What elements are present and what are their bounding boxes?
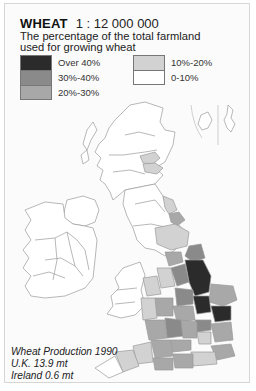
map-subtitle: The percentage of the total farmland use… [20, 31, 220, 53]
legend-swatch [20, 85, 52, 100]
buckinghamshire [181, 320, 197, 338]
legend-swatch [133, 70, 165, 85]
bedfordshire [195, 320, 211, 332]
legend-label: Over 40% [58, 57, 100, 68]
surrey-sussex [191, 352, 217, 366]
title-text: WHEAT [20, 16, 68, 31]
south-yorkshire [165, 252, 183, 266]
legend-swatch [20, 70, 52, 85]
caption-title: Wheat Production 1990 [11, 346, 117, 358]
essex [211, 322, 233, 342]
warwickshire [155, 298, 173, 316]
cambridgeshire [193, 296, 211, 314]
scotland [95, 102, 175, 200]
production-caption: Wheat Production 1990 U.K. 13.9 mt Irela… [11, 346, 117, 382]
legend-label: 30%-40% [58, 72, 99, 83]
humberside [185, 244, 205, 262]
legend-swatch [20, 55, 52, 70]
legend-label: 20%-30% [58, 87, 99, 98]
staffordshire [143, 276, 161, 296]
legend-item-30-40: 30%-40% [20, 70, 99, 85]
legend-swatch [133, 55, 165, 70]
wales [107, 262, 145, 318]
hampshire [173, 354, 193, 368]
suffolk [211, 306, 231, 322]
orkney-islands [198, 112, 212, 130]
hertfordshire [197, 332, 211, 344]
choropleth-map [5, 100, 251, 380]
legend-item-0-10: 0-10% [133, 70, 198, 85]
legend-item-over-40: Over 40% [20, 55, 100, 70]
map-scale: 1 : 12 000 000 [76, 16, 159, 31]
oxfordshire [165, 318, 183, 338]
berkshire [171, 340, 191, 352]
legend-item-20-30: 20%-30% [20, 85, 99, 100]
hereford-worcester [141, 298, 157, 320]
legend-label: 0-10% [171, 72, 198, 83]
leicestershire [175, 288, 193, 306]
shetland-islands [224, 105, 235, 132]
caption-ireland: Ireland 0.6 mt [11, 370, 117, 382]
gloucestershire [145, 320, 167, 340]
legend-label: 10%-20% [171, 57, 212, 68]
map-title: WHEAT1 : 12 000 000 [20, 16, 159, 31]
norfolk [209, 284, 237, 306]
legend-item-10-20: 10%-20% [133, 55, 212, 70]
dorset [153, 358, 173, 370]
caption-uk: U.K. 13.9 mt [11, 358, 117, 370]
wiltshire [151, 340, 173, 358]
